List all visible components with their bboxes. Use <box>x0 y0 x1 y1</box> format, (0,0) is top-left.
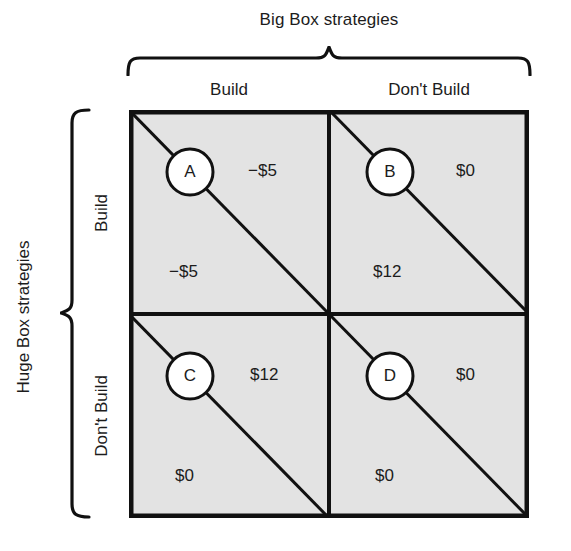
column-header-dont-build: Don't Build <box>329 80 529 100</box>
cell-label-d: D <box>367 353 413 399</box>
cell-label-b: B <box>367 149 413 195</box>
cell-d-upper-right-payoff: $0 <box>456 365 475 385</box>
column-group-label: Big Box strategies <box>129 10 529 30</box>
cell-label-a: A <box>167 149 213 195</box>
cell-label-c: C <box>167 353 213 399</box>
row-header-build: Build <box>92 118 112 308</box>
cell-d-lower-left-payoff: $0 <box>375 466 394 486</box>
left-brace <box>60 108 92 520</box>
column-header-build: Build <box>129 80 329 100</box>
cell-a-lower-left-payoff: −$5 <box>169 262 198 282</box>
cell-c-upper-right-payoff: $12 <box>250 365 278 385</box>
cell-c-lower-left-payoff: $0 <box>175 466 194 486</box>
payoff-matrix: A −$5 −$5 B $0 $12 C $12 $0 D $0 $0 <box>129 110 529 518</box>
cell-b-upper-right-payoff: $0 <box>456 161 475 181</box>
row-group-label: Huge Box strategies <box>14 207 34 427</box>
cell-b-lower-left-payoff: $12 <box>373 262 401 282</box>
top-brace <box>126 46 532 76</box>
top-brace-svg <box>126 46 532 76</box>
row-header-dont-build: Don't Build <box>92 321 112 511</box>
cell-a-upper-right-payoff: −$5 <box>248 161 277 181</box>
left-brace-svg <box>60 108 92 520</box>
